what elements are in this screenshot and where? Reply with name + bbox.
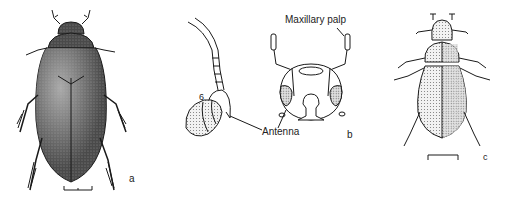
panel-label-a: a [129,174,135,184]
beetle-a-drawing [17,10,126,190]
mouthparts-drawing [271,28,350,128]
beetle-c-drawing [394,14,490,146]
scale-bar-a [64,186,92,190]
figure-canvas [0,0,507,199]
maxillary-palp-label: Maxillary palp [285,15,346,25]
antenna-detail-drawing [186,18,262,136]
panel-label-b: b [347,130,353,140]
segment-number-label: 6 [199,93,204,102]
panel-label-c: c [483,153,488,162]
scale-bar-c [428,155,458,160]
antenna-label: Antenna [262,127,299,137]
